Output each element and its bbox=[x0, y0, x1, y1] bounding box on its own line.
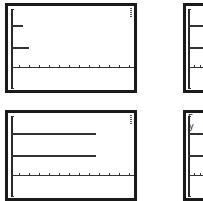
panel-top-left bbox=[5, 3, 137, 93]
level-line-upper bbox=[11, 25, 23, 27]
panel-bottom-right: Γ y bbox=[183, 110, 203, 201]
level-line-lower bbox=[11, 47, 29, 49]
level-line-upper bbox=[188, 25, 203, 27]
level-line-lower bbox=[11, 155, 96, 157]
level-line-upper bbox=[11, 133, 96, 135]
x-axis-dotted bbox=[188, 67, 203, 68]
y-label: y bbox=[189, 123, 194, 131]
panel-top-right bbox=[183, 3, 203, 93]
dotted-marker-icon bbox=[130, 8, 132, 18]
dotted-marker-icon bbox=[130, 115, 132, 125]
y-axis-line bbox=[188, 9, 190, 89]
x-axis-dotted bbox=[11, 67, 134, 68]
level-line-lower bbox=[188, 155, 203, 157]
y-axis-line bbox=[11, 9, 13, 89]
x-axis-dotted bbox=[11, 175, 134, 176]
level-line-lower bbox=[188, 47, 203, 49]
x-axis-dotted bbox=[188, 175, 203, 176]
level-line-upper bbox=[188, 133, 203, 135]
panel-bottom-left bbox=[5, 110, 137, 201]
